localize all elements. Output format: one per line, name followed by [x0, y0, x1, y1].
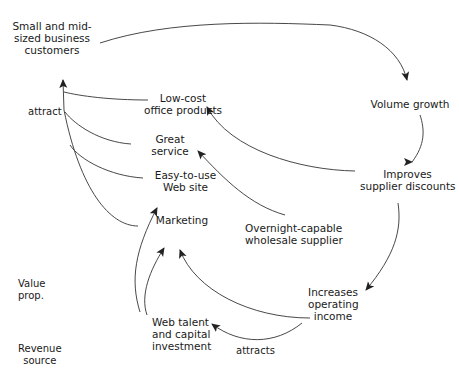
edge-discounts-lowcost: [207, 107, 355, 171]
node-line: Small and mid-: [2, 20, 102, 32]
node-line: investment: [152, 340, 210, 352]
node-line: Great: [145, 133, 195, 145]
edge-lowcost-attract: [64, 92, 148, 100]
edge-income-marketing: [180, 250, 310, 318]
node-supplier: Overnight-capable wholesale supplier: [245, 222, 335, 246]
node-line: office products: [138, 104, 228, 116]
node-line: Web site: [153, 181, 218, 193]
node-line: Volume growth: [370, 98, 450, 110]
edge-attract-main: [63, 80, 138, 226]
node-line: supplier discounts: [360, 180, 455, 192]
node-line: Web talent: [152, 316, 210, 328]
node-line: income: [308, 310, 358, 322]
node-income: Increases operating income: [308, 286, 358, 322]
node-line: service: [145, 145, 195, 157]
node-marketing: Marketing: [152, 214, 212, 226]
edge-website-attract: [70, 145, 143, 178]
node-low-cost: Low-cost office products: [138, 92, 228, 116]
side-label-line: Revenue: [18, 343, 62, 355]
node-line: wholesale supplier: [245, 234, 335, 246]
node-line: Easy-to-use: [153, 169, 218, 181]
node-line: Overnight-capable: [245, 222, 335, 234]
node-service: Great service: [145, 133, 195, 157]
node-web-talent: Web talent and capital investment: [152, 316, 210, 352]
side-label-line: Value: [18, 278, 45, 290]
edges-layer: [0, 0, 459, 385]
edge-income-webtalent: [212, 323, 302, 340]
node-website: Easy-to-use Web site: [153, 169, 218, 193]
node-discounts: Improves supplier discounts: [360, 168, 455, 192]
edge-volume-discounts: [412, 115, 423, 162]
node-line: customers: [2, 44, 102, 56]
side-label-line: prop.: [18, 290, 45, 302]
node-line: operating: [308, 298, 358, 310]
node-line: Increases: [308, 286, 358, 298]
edge-discounts-income: [366, 203, 399, 290]
edge-service-attract: [65, 112, 131, 144]
edge-webtalent-marketing: [145, 248, 164, 315]
node-line: Marketing: [152, 214, 212, 226]
node-line: Low-cost: [138, 92, 228, 104]
side-label-line: source: [18, 355, 62, 367]
node-line: sized business: [2, 32, 102, 44]
node-customers: Small and mid- sized business customers: [2, 20, 102, 56]
node-line: Improves: [360, 168, 455, 180]
edge-customers-volume: [100, 23, 407, 80]
edge-label-attract: attract: [28, 106, 62, 118]
side-label-value-prop: Value prop.: [18, 278, 45, 302]
edge-label-attracts: attracts: [236, 345, 275, 357]
side-label-revenue-source: Revenue source: [18, 343, 62, 367]
node-line: and capital: [152, 328, 210, 340]
node-volume: Volume growth: [370, 98, 450, 110]
